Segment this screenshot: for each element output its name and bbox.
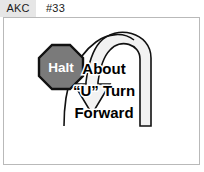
instruction-line-3: Forward: [74, 104, 133, 121]
halt-sign-label: Halt: [48, 60, 74, 75]
card-header: AKC #33: [0, 0, 204, 17]
instruction-line-1: About: [82, 60, 125, 77]
exercise-number-label: #33: [46, 3, 65, 14]
diagram-frame: Halt About “U” Turn Forward: [3, 17, 200, 165]
rally-sign-card: AKC #33 Halt About “U” Turn Forward: [0, 0, 204, 172]
instruction-text-block: About “U” Turn Forward: [73, 60, 135, 121]
organization-tab: AKC: [0, 0, 36, 17]
instruction-line-2: “U” Turn: [73, 82, 135, 99]
organization-label: AKC: [6, 3, 29, 14]
rally-sign-diagram: Halt About “U” Turn Forward: [4, 18, 200, 165]
